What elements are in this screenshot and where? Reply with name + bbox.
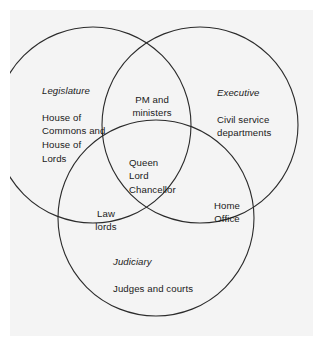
region-title-judiciary: Judiciary — [113, 255, 231, 269]
region-label-all-three: Queen Lord Chancellor — [129, 142, 201, 196]
region-body-legislature: House of Commons and House of Lords — [42, 112, 105, 164]
region-title-executive: Executive — [217, 86, 309, 100]
region-label-legislature-judiciary: Law lords — [82, 193, 130, 234]
region-label-executive: Executive Civil service departments — [217, 72, 309, 140]
region-body-executive-judiciary: Home Office — [214, 200, 240, 225]
region-body-legislature-executive: PM and ministers — [132, 94, 171, 119]
region-body-legislature-judiciary: Law lords — [95, 208, 116, 233]
region-label-executive-judiciary: Home Office — [200, 185, 254, 226]
region-body-all-three: Queen Lord Chancellor — [129, 157, 176, 195]
diagram-frame: Legislature House of Commons and House o… — [10, 10, 313, 336]
venn-diagram-page: Legislature House of Commons and House o… — [0, 0, 323, 349]
region-label-judiciary: Judiciary Judges and courts — [113, 241, 231, 295]
region-body-executive: Civil service departments — [217, 114, 271, 139]
region-label-legislature-executive: PM and ministers — [113, 79, 191, 120]
region-body-judiciary: Judges and courts — [113, 283, 193, 294]
